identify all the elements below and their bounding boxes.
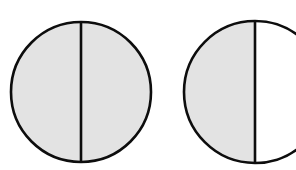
fraction-circles-diagram — [0, 0, 296, 170]
circle-half-right-unshaded-region — [255, 21, 296, 163]
circle-half-left-shaded-region — [184, 21, 255, 163]
circle-half-group — [184, 21, 296, 163]
circle-whole-group — [11, 22, 151, 162]
diagram-canvas — [0, 0, 296, 170]
